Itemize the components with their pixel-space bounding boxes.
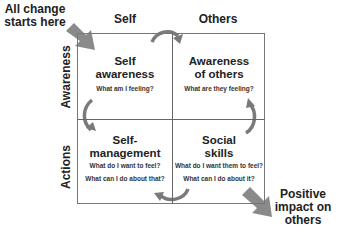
start-callout: All change starts here xyxy=(0,3,70,29)
quadrant-title-line: Self xyxy=(78,55,172,68)
row-header-awareness: Awareness xyxy=(59,37,73,117)
quadrant-title-line: Awareness xyxy=(173,55,265,68)
quadrant-title-line: of others xyxy=(173,68,265,81)
quadrant-question: What do I want them to feel? xyxy=(173,161,265,170)
quadrant-question: What are they feeling? xyxy=(173,84,265,93)
quadrant-question: What can I do about that? xyxy=(78,174,172,183)
quadrant-self-management: Self- management What do I want to feel?… xyxy=(78,134,172,183)
quadrant-question: What am I feeling? xyxy=(78,84,172,93)
quadrant-title-line: Social xyxy=(173,134,265,147)
end-callout: Positive impact on others xyxy=(268,188,338,227)
quadrant-title-line: management xyxy=(78,147,172,160)
start-callout-line-2: starts here xyxy=(0,16,70,29)
quadrant-question: What can I do about it? xyxy=(173,174,265,183)
quadrant-title-line: awareness xyxy=(78,68,172,81)
quadrant-social-skills: Social skills What do I want them to fee… xyxy=(173,134,265,183)
horizontal-divider xyxy=(77,119,265,120)
column-header-self: Self xyxy=(100,12,150,26)
quadrant-awareness-of-others: Awareness of others What are they feelin… xyxy=(173,55,265,93)
quadrant-self-awareness: Self awareness What am I feeling? xyxy=(78,55,172,93)
column-header-others: Others xyxy=(183,12,253,26)
quadrant-question: What do I want to feel? xyxy=(78,161,172,170)
row-header-actions: Actions xyxy=(59,137,73,197)
end-callout-line-3: others xyxy=(268,214,338,227)
quadrant-title-line: skills xyxy=(173,147,265,160)
quadrant-title-line: Self- xyxy=(78,134,172,147)
